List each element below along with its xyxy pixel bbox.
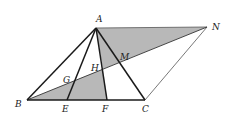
label-M: M: [119, 52, 130, 62]
label-C: C: [142, 104, 149, 114]
label-F: F: [101, 104, 109, 114]
label-N: N: [211, 22, 221, 32]
label-G: G: [63, 75, 70, 85]
label-H: H: [90, 63, 99, 73]
geometry-diagram: A N M H G B E F C: [0, 0, 235, 115]
label-A: A: [95, 14, 103, 24]
label-B: B: [14, 99, 22, 109]
label-E: E: [61, 104, 69, 114]
